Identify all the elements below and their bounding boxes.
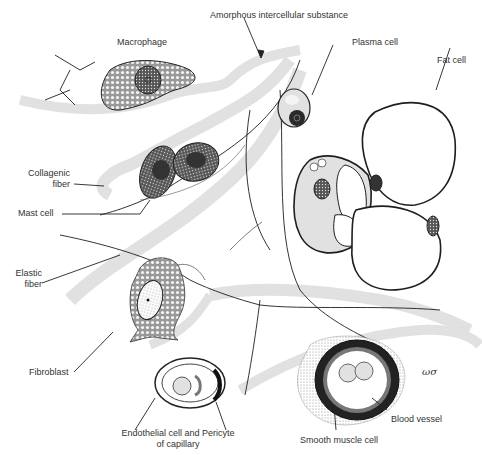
plasma-cell [278, 89, 310, 127]
label-elastic-fiber: Elastic fiber [4, 268, 42, 290]
fat-cells [294, 103, 455, 290]
artist-signature: ωσ [422, 366, 438, 377]
label-fibroblast: Fibroblast [29, 367, 69, 378]
label-smooth-muscle-cell: Smooth muscle cell [300, 435, 378, 446]
label-mast-cell: Mast cell [18, 208, 54, 219]
label-fat-cell: Fat cell [437, 55, 466, 66]
blood-vessel [297, 336, 405, 425]
label-blood-vessel: Blood vessel [391, 414, 442, 425]
label-collagenic-fiber: Collagenic fiber [20, 168, 70, 190]
connective-tissue-illustration: ωσ [0, 0, 482, 455]
macrophage-cell [101, 61, 195, 111]
label-plasma-cell: Plasma cell [352, 37, 398, 48]
label-endothelial-cell-and-pericyte: Endothelial cell and Pericyte of capilla… [103, 428, 253, 450]
label-amorphous-intercellular-substance: Amorphous intercellular substance [210, 10, 348, 21]
mast-cells [133, 138, 245, 203]
label-macrophage: Macrophage [117, 37, 167, 48]
capillary [155, 358, 225, 408]
